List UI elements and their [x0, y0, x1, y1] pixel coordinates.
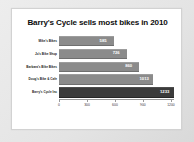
chart-card: Barry's Cycle sells most bikes in 2010 M…	[11, 8, 182, 130]
bar-value-label: 1233	[160, 89, 169, 94]
category-label: Mike's Bikes	[39, 35, 57, 48]
bar-value-label: 585	[100, 38, 107, 43]
tick-label: 300	[84, 103, 90, 107]
bar-value-label: 726	[113, 50, 120, 55]
value-axis-ticks: 03006009001200	[59, 100, 174, 114]
category-label: Doug's Bike & Cafe	[29, 73, 57, 86]
bar-row: 1013	[59, 73, 174, 86]
bar-row: 726	[59, 48, 174, 61]
tick-mark	[59, 100, 60, 102]
category-label: Barry's Cycle Inc	[32, 86, 57, 99]
tick-mark	[87, 100, 88, 102]
bar-row: 585	[59, 35, 174, 48]
screenshot-canvas: Barry's Cycle sells most bikes in 2010 M…	[0, 0, 194, 142]
tick-mark	[143, 100, 144, 102]
bar-row: 860	[59, 61, 174, 74]
tick-mark	[115, 100, 116, 102]
tick-label: 0	[58, 103, 60, 107]
tick-label: 900	[140, 103, 146, 107]
bar-value-label: 1013	[139, 76, 148, 81]
tick-mark	[171, 100, 172, 102]
category-label: Barbara's Bike Bikes	[26, 61, 57, 74]
bar-series: 585 726 860 1013 1233	[59, 35, 174, 99]
tick-label: 1200	[167, 103, 175, 107]
bar-value-label: 860	[125, 63, 132, 68]
bar-4[interactable]	[59, 87, 174, 97]
bar-row: 1233	[59, 86, 174, 99]
category-label: Jo's Bike Shop	[35, 48, 57, 61]
category-axis: Mike's Bikes Jo's Bike Shop Barbara's Bi…	[22, 35, 58, 99]
bar-chart-plot-area: Mike's Bikes Jo's Bike Shop Barbara's Bi…	[22, 35, 174, 117]
tick-label: 600	[112, 103, 118, 107]
page-title: Barry's Cycle sells most bikes in 2010	[12, 18, 183, 27]
